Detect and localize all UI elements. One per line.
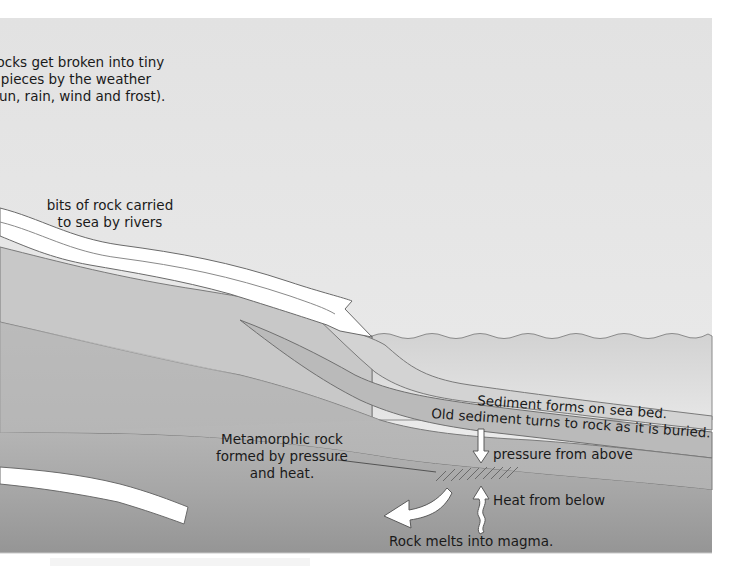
metamorphic-label-line3: and heat. bbox=[250, 465, 314, 481]
weathering-label-line3: (sun, rain, wind and frost). bbox=[0, 88, 165, 104]
weathering-label: Rocks get broken into tiny pieces by the… bbox=[0, 54, 165, 104]
rivers-label-line1: bits of rock carried bbox=[47, 197, 173, 213]
rivers-label-line2: to sea by rivers bbox=[58, 214, 163, 230]
rivers-label: bits of rock carried to sea by rivers bbox=[47, 197, 173, 230]
weathering-label-line2: pieces by the weather bbox=[1, 71, 152, 87]
metamorphic-label-line1: Metamorphic rock bbox=[221, 431, 343, 447]
weathering-label-line1: Rocks get broken into tiny bbox=[0, 54, 164, 70]
rock-cycle-diagram: Rocks get broken into tiny pieces by the… bbox=[0, 0, 746, 575]
bottom-faint-strip bbox=[50, 558, 310, 566]
heat-label: Heat from below bbox=[493, 492, 605, 508]
metamorphic-label-line2: formed by pressure bbox=[216, 448, 348, 464]
pressure-label: pressure from above bbox=[493, 446, 633, 462]
magma-label: Rock melts into magma. bbox=[389, 533, 553, 549]
